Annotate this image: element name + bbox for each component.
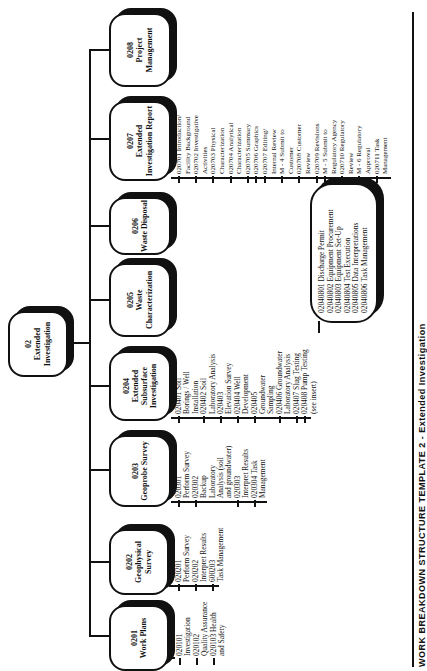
list-item: Characterization — [235, 115, 244, 181]
list-0203: 020301 Perform Survey 020302 Backup Labo… — [175, 446, 267, 505]
box-title: Extended Investigation Report — [135, 103, 153, 179]
list-item: Internal Review — [270, 115, 279, 181]
box-title: Waste Characterization — [135, 265, 153, 335]
box-code: 0204 — [122, 378, 131, 394]
box-code: 0208 — [126, 42, 135, 58]
list-item: 020708 Customer — [295, 115, 304, 181]
list-item: 020710 Regulatory — [338, 115, 347, 181]
box-0204: 0204 Extended Subsurface Investigation — [109, 351, 171, 421]
box-0208: 0208 Project Management — [109, 13, 171, 87]
root-connector — [70, 342, 90, 344]
list-item: 020703 Physical — [209, 115, 218, 181]
list-0207: 020701 Introduction/ Facility Background… — [175, 115, 390, 181]
list-item: Customer — [287, 115, 296, 181]
list-item: M - 5 Submit to — [321, 115, 330, 181]
list-item: Regulatory Agency — [330, 115, 339, 181]
list-0201: 020101 Investigation 020102 Quality Assu… — [176, 602, 226, 663]
drop-0201 — [89, 635, 109, 637]
box-code: 0202 — [125, 554, 134, 570]
drop-0202 — [89, 561, 109, 563]
box-0205: 0205 Waste Characterization — [109, 263, 171, 337]
figure-caption: WORK BREAKDOWN STRUCTURE TEMPLATE 2 - Ex… — [417, 0, 427, 667]
box-0201: 0201 Work Plans — [109, 605, 169, 671]
list-item: 020704 Analytical — [227, 115, 236, 181]
box-0206: 0206 Waste Disposal — [109, 197, 171, 255]
root-code: 02 — [24, 340, 33, 348]
list-item: and Safety — [218, 602, 226, 663]
list-item: M - 4 Submit to — [278, 115, 287, 181]
list-item: Review — [347, 115, 356, 181]
drop-0204 — [89, 385, 109, 387]
caption-rule — [412, 12, 414, 667]
box-0202: 0202 Geophysical Survey — [109, 529, 169, 595]
drop-0205 — [89, 299, 109, 301]
list-item: (see insert) — [310, 349, 318, 421]
box-code: 0205 — [126, 292, 135, 308]
list-item: Task Management — [217, 528, 225, 589]
drop-0208 — [89, 49, 109, 51]
list-item: Review — [304, 115, 313, 181]
list-item: 020706 Graphics — [252, 115, 261, 181]
drop-0206 — [89, 225, 109, 227]
box-0207: 0207 Extended Investigation Report — [109, 101, 171, 181]
box-title: Geophysical Survey — [134, 531, 152, 593]
insert-box-020408: 02040801 Discharge Permit 02040802 Equip… — [310, 183, 378, 323]
insert-connector — [318, 321, 320, 333]
box-title: Extended Subsurface Investigation — [131, 353, 159, 419]
list-item: 020709 Revisions — [313, 115, 322, 181]
list-item: Approval — [364, 115, 373, 181]
box-code: 0207 — [126, 133, 135, 149]
box-0203: 0203 Geoprobe Survey — [109, 435, 171, 507]
box-title: Geoprobe Survey — [140, 441, 149, 501]
list-item: 020707 Editing/ — [261, 115, 270, 181]
list-item: Facility Background — [184, 115, 193, 181]
drop-0207 — [89, 138, 109, 140]
list-item: M - 6 Regulatory — [355, 115, 364, 181]
bracket-0201 — [169, 657, 175, 659]
root-box: 02 Extended Investigation — [8, 311, 68, 377]
list-0202: 020201 Perform Survey 020202 Interpret R… — [175, 528, 225, 589]
insert-item: 02040806 Task Management — [361, 193, 370, 313]
box-code: 0203 — [131, 463, 140, 479]
list-item: Characterization — [218, 115, 227, 181]
root-title: Extended Investigation — [33, 313, 51, 375]
box-code: 0206 — [131, 218, 140, 234]
list-item: 020701 Introduction/ — [175, 115, 184, 181]
list-item: 020705 Summary — [244, 115, 253, 181]
list-item: Activities — [201, 115, 210, 181]
list-item: Management — [381, 115, 390, 181]
list-0204: 020401 Soil Borings / Well Installation … — [175, 349, 318, 421]
box-title: Waste Disposal — [140, 200, 149, 252]
drop-0203 — [89, 469, 109, 471]
box-title: Project Management — [135, 15, 153, 85]
list-item: 020702 Investigative — [192, 115, 201, 181]
box-code: 0201 — [130, 630, 139, 646]
list-item: 020711 Task — [373, 115, 382, 181]
list-item: Management — [259, 446, 267, 505]
box-title: Work Plans — [139, 618, 148, 658]
